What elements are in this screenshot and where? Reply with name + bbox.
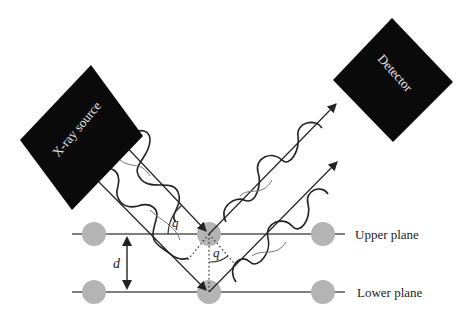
atom (82, 280, 106, 304)
atom (311, 222, 335, 246)
spacing-label: d (113, 256, 121, 271)
lower-plane-label: Lower plane (357, 285, 423, 300)
xray-source-box: X-ray source (20, 65, 143, 210)
incident-ray-lower (92, 175, 206, 290)
atom (311, 280, 335, 304)
upper-plane-label: Upper plane (355, 227, 419, 242)
spacing-arrowhead-down (122, 280, 132, 290)
angle-label-path: q (213, 245, 220, 260)
atom (82, 222, 106, 246)
spacing-arrowhead-up (122, 236, 132, 246)
bragg-diffraction-diagram: X-ray source Detector Upper plane Lower … (0, 0, 468, 318)
detector-box: Detector (333, 18, 453, 142)
angle-label-incident: q (172, 215, 179, 230)
